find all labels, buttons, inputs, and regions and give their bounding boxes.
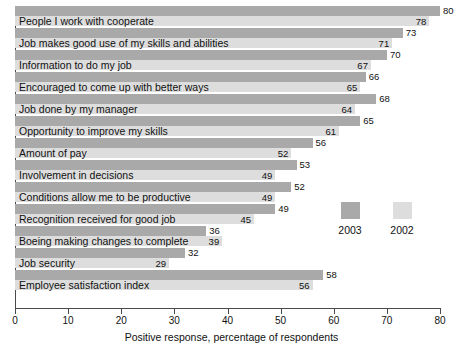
bar-value-2002: 29 xyxy=(155,259,169,269)
bar-value-2002: 56 xyxy=(299,281,313,291)
category-label: Amount of pay xyxy=(19,147,87,159)
x-tick-label: 50 xyxy=(275,315,286,327)
category-label: Involvement in decisions xyxy=(19,169,133,181)
bar-value-2002: 52 xyxy=(278,149,292,159)
x-tick-label: 80 xyxy=(434,315,445,327)
category-label: Job done by my manager xyxy=(19,103,137,115)
x-axis-title: Positive response, percentage of respond… xyxy=(0,331,463,343)
bar-value-2003: 66 xyxy=(366,72,380,82)
chart-category-row: 7371Job makes good use of my skills and … xyxy=(0,28,425,50)
bar-value-2002: 78 xyxy=(416,17,430,27)
x-tick-mark xyxy=(387,309,388,314)
chart-legend: 20032002 xyxy=(328,202,438,244)
bar-value-2002: 39 xyxy=(209,237,223,247)
category-label: Opportunity to improve my skills xyxy=(19,125,168,137)
category-label: Conditions allow me to be productive xyxy=(19,191,191,203)
legend-swatch xyxy=(341,202,360,219)
bar-value-2002: 61 xyxy=(325,127,339,137)
legend-item: 2002 xyxy=(380,202,424,236)
bar-value-2002: 67 xyxy=(357,61,371,71)
bar-value-2003: 80 xyxy=(440,6,454,16)
category-label: Job security xyxy=(19,257,75,269)
x-tick-label: 60 xyxy=(328,315,339,327)
chart-category-row: 6665Encouraged to come up with better wa… xyxy=(0,72,425,94)
bar-value-2002: 64 xyxy=(341,105,355,115)
x-tick-mark xyxy=(281,309,282,314)
legend-label: 2002 xyxy=(380,224,424,236)
x-tick-mark xyxy=(121,309,122,314)
x-tick-label: 40 xyxy=(222,315,233,327)
chart-category-row: 5349Involvement in decisions xyxy=(0,160,425,182)
chart-category-row: 8078People I work with cooperate xyxy=(0,6,425,28)
x-tick-mark xyxy=(68,309,69,314)
legend-item: 2003 xyxy=(328,202,372,236)
bar-value-2003: 49 xyxy=(275,204,289,214)
bar-value-2003: 56 xyxy=(313,138,327,148)
chart-category-row: 5856Employee satisfaction index xyxy=(0,270,425,292)
category-label: Information to do my job xyxy=(19,59,132,71)
bar-value-2003: 73 xyxy=(403,28,417,38)
chart-category-row: 3229Job security xyxy=(0,248,425,270)
chart-category-row: 6864Job done by my manager xyxy=(0,94,425,116)
legend-label: 2003 xyxy=(328,224,372,236)
category-label: Employee satisfaction index xyxy=(19,279,149,291)
chart-category-row: 5652Amount of pay xyxy=(0,138,425,160)
bar-value-2002: 45 xyxy=(240,215,254,225)
bar-value-2002: 65 xyxy=(347,83,361,93)
bar-value-2002: 49 xyxy=(262,171,276,181)
bar-value-2002: 71 xyxy=(379,39,393,49)
bar-value-2003: 36 xyxy=(206,226,220,236)
bar-value-2003: 65 xyxy=(360,116,374,126)
x-tick-label: 70 xyxy=(381,315,392,327)
x-tick-mark xyxy=(334,309,335,314)
category-label: Job makes good use of my skills and abil… xyxy=(19,37,229,49)
bar-chart: 01020304050607080 8078People I work with… xyxy=(0,0,463,357)
category-label: Encouraged to come up with better ways xyxy=(19,81,209,93)
x-tick-mark xyxy=(174,309,175,314)
category-label: Recognition received for good job xyxy=(19,213,175,225)
bar-value-2003: 70 xyxy=(387,50,401,60)
x-tick-label: 20 xyxy=(116,315,127,327)
x-tick-mark xyxy=(228,309,229,314)
category-label: People I work with cooperate xyxy=(19,15,154,27)
bar-value-2002: 49 xyxy=(262,193,276,203)
bar-value-2003: 68 xyxy=(376,94,390,104)
x-tick-label: 0 xyxy=(12,315,18,327)
x-tick-mark xyxy=(15,309,16,314)
chart-category-row: 5249Conditions allow me to be productive xyxy=(0,182,425,204)
legend-swatch xyxy=(393,202,412,219)
x-tick-label: 10 xyxy=(63,315,74,327)
bar-value-2003: 53 xyxy=(297,160,311,170)
bar-value-2003: 52 xyxy=(291,182,305,192)
bar-value-2003: 32 xyxy=(185,248,199,258)
x-tick-label: 30 xyxy=(169,315,180,327)
category-label: Boeing making changes to complete xyxy=(19,235,188,247)
x-tick-mark xyxy=(440,309,441,314)
bar-value-2003: 58 xyxy=(323,270,337,280)
chart-category-row: 6561Opportunity to improve my skills xyxy=(0,116,425,138)
chart-category-row: 7067Information to do my job xyxy=(0,50,425,72)
